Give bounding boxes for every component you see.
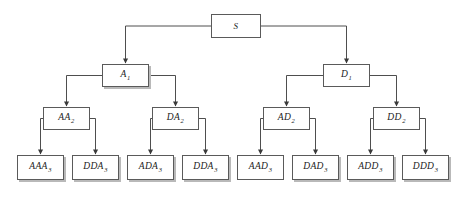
edge-DA2-DDA3b	[199, 119, 206, 155]
tree-node-subscript: 3	[379, 166, 383, 173]
tree-node-aaa3: AAA3	[17, 155, 64, 180]
tree-node-subscript: 3	[324, 166, 328, 173]
tree-node-d1: D1	[323, 64, 370, 87]
tree-node-subscript: 2	[292, 117, 296, 124]
tree-node-label: DD2	[387, 113, 405, 124]
tree-node-ddd3: DDD3	[402, 155, 449, 180]
edge-AA2-DDA3	[90, 119, 96, 155]
tree-node-dad3: DAD3	[292, 155, 339, 180]
tree-node-label: AD2	[278, 113, 295, 124]
edge-D1-AD2	[287, 76, 324, 107]
tree-node-subscript: 1	[127, 74, 131, 81]
tree-node-subscript: 2	[71, 117, 75, 124]
tree-node-subscript: 1	[349, 74, 353, 81]
edge-S-A1	[126, 26, 212, 63]
tree-node-da2: DA2	[152, 107, 199, 130]
edge-A1-AA2	[67, 76, 103, 107]
tree-node-ad2: AD2	[263, 107, 310, 130]
tree-node-a1: A1	[102, 64, 149, 87]
tree-node-add3: ADD3	[347, 155, 394, 180]
tree-node-subscript: 3	[48, 166, 52, 173]
tree-node-label: A1	[120, 70, 130, 81]
tree-node-label: AA2	[58, 113, 74, 124]
tree-node-label: S	[234, 22, 239, 31]
tree-node-dda3b: DDA3	[182, 155, 229, 180]
edge-D1-DD2	[370, 76, 397, 107]
tree-node-label: DA2	[167, 113, 184, 124]
tree-node-label: ADD3	[358, 162, 383, 173]
tree-node-label: DAD3	[303, 162, 328, 173]
tree-node-subscript: 3	[104, 166, 108, 173]
tree-node-aa2: AA2	[43, 107, 90, 130]
tree-node-s: S	[211, 14, 261, 38]
tree-node-label: DDD3	[413, 162, 439, 173]
derivation-tree-diagram: SA1D1AA2DA2AD2DD2AAA3DDA3ADA3DDA3AAD3DAD…	[0, 0, 461, 197]
tree-node-subscript: 2	[402, 117, 406, 124]
tree-node-aad3: AAD3	[237, 155, 284, 180]
tree-node-ada3: ADA3	[127, 155, 174, 180]
tree-node-subscript: 3	[435, 166, 439, 173]
tree-node-subscript: 2	[181, 117, 185, 124]
tree-node-label: ADA3	[139, 162, 162, 173]
tree-node-subscript: 3	[214, 166, 218, 173]
tree-node-subscript: 3	[269, 166, 273, 173]
tree-node-label: AAA3	[29, 162, 51, 173]
tree-node-label: DDA3	[83, 162, 108, 173]
tree-node-subscript: 3	[159, 166, 163, 173]
tree-node-label: DDA3	[193, 162, 218, 173]
edge-DD2-DDD3	[420, 119, 426, 155]
tree-node-label: AAD3	[249, 162, 272, 173]
edge-S-D1	[261, 26, 347, 63]
tree-node-dda3: DDA3	[72, 155, 119, 180]
edge-paths	[41, 26, 426, 154]
tree-node-dd2: DD2	[373, 107, 420, 130]
edge-A1-DA2	[149, 76, 176, 107]
edge-AD2-DAD3	[310, 119, 316, 155]
tree-node-label: D1	[341, 70, 352, 81]
